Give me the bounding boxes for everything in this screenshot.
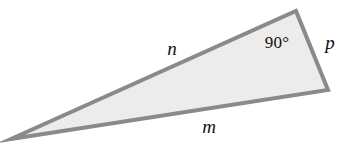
triangle-figure: n m p 90° xyxy=(0,0,354,150)
side-label-n: n xyxy=(167,39,177,58)
side-label-p: p xyxy=(325,33,335,52)
side-label-m: m xyxy=(202,117,216,136)
triangle-polygon xyxy=(11,11,328,139)
right-angle-label: 90° xyxy=(265,34,289,51)
triangle-shape xyxy=(0,0,354,150)
